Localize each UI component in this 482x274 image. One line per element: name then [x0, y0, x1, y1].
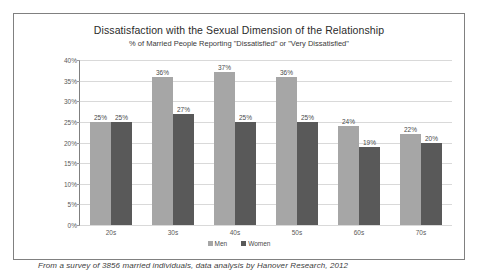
y-axis-tick-label: 0% [68, 222, 77, 229]
bar-value-label: 37% [218, 64, 231, 71]
bar-value-label: 22% [404, 126, 417, 133]
bar-value-label: 20% [425, 135, 438, 142]
bar-slot: 24% [338, 60, 359, 225]
bar-value-label: 24% [342, 118, 355, 125]
y-axis-tick-mark [77, 225, 80, 226]
plot-area: 40%35%30%25%20%15%10%5%0% 25%25%20s36%27… [79, 60, 452, 226]
bar-slot: 20% [421, 60, 442, 225]
bar-women-60s[interactable]: 19% [359, 147, 380, 225]
bar-slot: 37% [214, 60, 235, 225]
y-axis-tick-label: 35% [64, 77, 77, 84]
bar-men-60s[interactable]: 24% [338, 126, 359, 225]
bar-slot: 36% [152, 60, 173, 225]
chart-subtitle: % of Married People Reporting "Dissatisf… [14, 38, 464, 49]
footer-note: From a survey of 3856 married individual… [38, 261, 348, 270]
bar-value-label: 19% [363, 139, 376, 146]
chart-title: Dissatisfaction with the Sexual Dimensio… [14, 24, 464, 37]
bar-value-label: 27% [177, 106, 190, 113]
y-axis-tick-label: 10% [64, 180, 77, 187]
bar-men-70s[interactable]: 22% [400, 134, 421, 225]
bars-layer: 25%25%20s36%27%30s37%25%40s36%25%50s24%1… [80, 60, 452, 225]
gridline: 0% [80, 225, 452, 226]
bar-men-20s[interactable]: 25% [90, 122, 111, 225]
y-axis-tick-label: 15% [64, 160, 77, 167]
bar-slot: 25% [297, 60, 318, 225]
y-axis-tick-label: 30% [64, 98, 77, 105]
bar-group: 37%25%40s [214, 60, 256, 225]
x-axis-category-label: 40s [230, 229, 240, 236]
plot-wrapper: 40%35%30%25%20%15%10%5%0% 25%25%20s36%27… [66, 60, 452, 226]
chart-legend: MenWomen [14, 240, 464, 247]
bar-value-label: 25% [301, 114, 314, 121]
legend-label: Women [248, 240, 270, 247]
y-axis-tick-label: 40% [64, 57, 77, 64]
bar-slot: 25% [111, 60, 132, 225]
bar-slot: 36% [276, 60, 297, 225]
x-axis-category-label: 70s [416, 229, 426, 236]
bar-men-30s[interactable]: 36% [152, 77, 173, 226]
bar-slot: 27% [173, 60, 194, 225]
bar-women-70s[interactable]: 20% [421, 143, 442, 226]
bar-women-30s[interactable]: 27% [173, 114, 194, 225]
legend-item-women[interactable]: Women [241, 240, 270, 247]
bar-women-40s[interactable]: 25% [235, 122, 256, 225]
x-axis-category-label: 20s [106, 229, 116, 236]
bar-men-50s[interactable]: 36% [276, 77, 297, 226]
legend-label: Men [215, 240, 228, 247]
chart-title-block: Dissatisfaction with the Sexual Dimensio… [14, 24, 464, 49]
bar-slot: 22% [400, 60, 421, 225]
bar-women-50s[interactable]: 25% [297, 122, 318, 225]
x-axis-category-label: 50s [292, 229, 302, 236]
legend-swatch-icon [208, 241, 213, 246]
bar-men-40s[interactable]: 37% [214, 72, 235, 225]
bar-value-label: 25% [94, 114, 107, 121]
x-axis-category-label: 60s [354, 229, 364, 236]
y-axis-tick-label: 5% [68, 201, 77, 208]
bar-slot: 25% [235, 60, 256, 225]
bar-value-label: 25% [239, 114, 252, 121]
bar-group: 36%27%30s [152, 60, 194, 225]
bar-slot: 19% [359, 60, 380, 225]
legend-swatch-icon [241, 241, 246, 246]
bar-group: 25%25%20s [90, 60, 132, 225]
y-axis-tick-label: 20% [64, 139, 77, 146]
x-axis-category-label: 30s [168, 229, 178, 236]
bar-group: 36%25%50s [276, 60, 318, 225]
legend-item-men[interactable]: Men [208, 240, 228, 247]
bar-women-20s[interactable]: 25% [111, 122, 132, 225]
chart-card: Dissatisfaction with the Sexual Dimensio… [13, 13, 465, 260]
bar-slot: 25% [90, 60, 111, 225]
bar-group: 22%20%70s [400, 60, 442, 225]
bar-value-label: 25% [115, 114, 128, 121]
y-axis-tick-label: 25% [64, 118, 77, 125]
bar-value-label: 36% [156, 69, 169, 76]
bar-value-label: 36% [280, 69, 293, 76]
bar-group: 24%19%60s [338, 60, 380, 225]
